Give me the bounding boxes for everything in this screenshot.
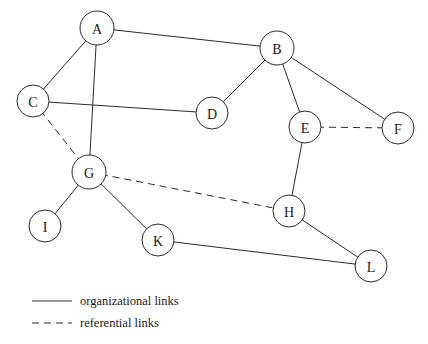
edge-C-D [33, 101, 212, 113]
legend: organizational links referential links [32, 294, 179, 330]
legend-item-organizational: organizational links [32, 294, 179, 308]
node-H[interactable]: H [273, 195, 305, 227]
node-H-label: H [284, 205, 294, 220]
node-I[interactable]: I [29, 210, 61, 242]
node-D[interactable]: D [196, 97, 228, 129]
edge-G-H [89, 172, 289, 211]
edge-K-L [158, 240, 371, 266]
node-B-label: B [272, 42, 281, 57]
node-K[interactable]: K [142, 224, 174, 256]
node-E[interactable]: E [289, 111, 321, 143]
legend-label-referential: referential links [80, 316, 159, 330]
node-C-label: C [28, 95, 37, 110]
node-E-label: E [301, 121, 310, 136]
node-B[interactable]: B [260, 31, 294, 65]
node-A[interactable]: A [80, 11, 114, 45]
edge-A-G [89, 28, 97, 172]
node-L-label: L [367, 260, 376, 275]
edge-A-B [97, 28, 277, 48]
legend-label-organizational: organizational links [80, 294, 179, 308]
node-L[interactable]: L [355, 250, 387, 282]
node-K-label: K [153, 234, 163, 249]
node-G-label: G [84, 166, 94, 181]
node-F[interactable]: F [382, 112, 414, 144]
node-F-label: F [394, 122, 402, 137]
legend-item-referential: referential links [32, 316, 159, 330]
diagram-canvas: A B C D E F G [0, 0, 428, 344]
node-C[interactable]: C [17, 85, 49, 117]
edges-layer [33, 28, 398, 266]
node-I-label: I [43, 220, 48, 235]
node-A-label: A [92, 22, 103, 37]
node-D-label: D [207, 107, 217, 122]
node-G[interactable]: G [72, 155, 106, 189]
graph-diagram: A B C D E F G [0, 0, 428, 344]
